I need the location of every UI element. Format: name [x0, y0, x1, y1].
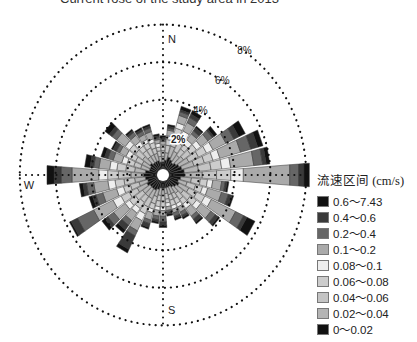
petal-segment	[99, 158, 111, 169]
legend-item: 0.4～0.6	[317, 209, 404, 225]
petal-segment	[115, 179, 125, 188]
legend-swatch	[317, 244, 329, 255]
legend-item: 0～0.02	[317, 321, 404, 337]
rose-petals	[47, 106, 309, 253]
legend-label: 0.08～0.1	[333, 257, 382, 273]
legend-label: 0.4～0.6	[333, 209, 376, 225]
petal-segment	[161, 141, 166, 145]
legend-item: 0.1～0.2	[317, 241, 404, 257]
legend-label: 0.04～0.06	[333, 289, 389, 305]
rose-center	[157, 169, 169, 181]
legend-label: 0.06～0.08	[333, 273, 389, 289]
legend-swatch	[317, 324, 329, 335]
ring-label-8: 8%	[237, 45, 252, 56]
ring-label-4: 4%	[193, 105, 208, 116]
ring-label-2: 2%	[171, 134, 186, 145]
legend-swatch	[317, 228, 329, 239]
legend-label: 0.6～7.43	[333, 193, 382, 209]
legend-item: 0.6～7.43	[317, 193, 404, 209]
petal-segment	[217, 170, 231, 181]
legend-label: 0.1～0.2	[333, 241, 376, 257]
petal-segment	[72, 168, 99, 183]
legend-title: 流速区间 (cm/s)	[317, 170, 404, 189]
legend-swatch	[317, 260, 329, 271]
legend-swatch	[317, 196, 329, 207]
legend: 流速区间 (cm/s) 0.6～7.430.4～0.60.2～0.40.1～0.…	[317, 170, 404, 337]
legend-item: 0.04～0.06	[317, 289, 404, 305]
petal-segment	[210, 160, 222, 170]
legend-swatch	[317, 292, 329, 303]
legend-items: 0.6～7.430.4～0.60.2～0.40.1～0.20.08～0.10.0…	[317, 193, 404, 337]
legend-item: 0.08～0.1	[317, 257, 404, 273]
ring-label-6: 6%	[215, 75, 230, 86]
legend-item: 0.02～0.04	[317, 305, 404, 321]
legend-label: 0.02～0.04	[333, 305, 389, 321]
legend-swatch	[317, 276, 329, 287]
legend-swatch	[317, 212, 329, 223]
north-label: N	[168, 33, 176, 45]
petal-segment	[54, 166, 61, 184]
legend-item: 0.06～0.08	[317, 273, 404, 289]
west-label: W	[24, 179, 35, 191]
legend-swatch	[317, 308, 329, 319]
legend-label: 0.2～0.4	[333, 225, 376, 241]
south-label: S	[168, 304, 175, 316]
legend-item: 0.2～0.4	[317, 225, 404, 241]
legend-label: 0～0.02	[333, 321, 373, 337]
